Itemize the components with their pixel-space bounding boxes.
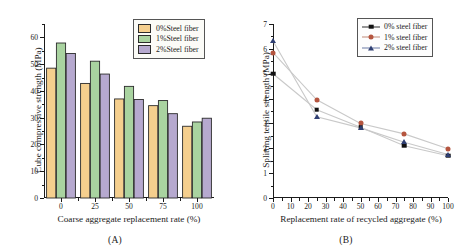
x-tick-label-b: 60 xyxy=(374,202,382,211)
legend-swatch-2pct xyxy=(138,45,151,54)
x-tick-minor-b xyxy=(387,198,388,201)
marker-circle-icon xyxy=(314,97,319,102)
y-axis-title-a: Cube compressive strength (MPa) xyxy=(33,23,43,197)
line-2steelfiber xyxy=(273,41,448,155)
x-tick-label-b: 0 xyxy=(271,202,275,211)
panel-a-bar-chart: 0102030405060 0255075100 Coarse aggregat… xyxy=(0,0,230,251)
x-tick-minor-a xyxy=(180,198,181,201)
x-tick-label-a: 0 xyxy=(59,202,63,211)
marker-triangle-icon xyxy=(401,139,407,144)
panel-b-caption: (B) xyxy=(231,235,461,245)
bar-2Steelfiber-0 xyxy=(66,53,75,198)
x-tick-minor-a xyxy=(112,198,113,201)
bar-0Steelfiber-50 xyxy=(115,99,124,198)
bar-0Steelfiber-100 xyxy=(183,126,192,198)
x-tick-minor-b xyxy=(422,198,423,201)
figure-two-panel-charts: 0102030405060 0255075100 Coarse aggregat… xyxy=(0,0,461,251)
bar-2Steelfiber-25 xyxy=(100,74,109,198)
bar-2Steelfiber-75 xyxy=(168,114,177,198)
bar-1Steelfiber-75 xyxy=(158,101,167,198)
x-tick-minor-a xyxy=(78,198,79,201)
x-tick-label-a: 100 xyxy=(191,202,202,211)
legend-marker-triangle xyxy=(362,43,380,52)
x-tick-minor-b xyxy=(334,198,335,201)
bar-1Steelfiber-25 xyxy=(90,61,99,198)
x-tick-minor-b xyxy=(299,198,300,201)
legend-item-b-2[interactable]: 2% steel fiber xyxy=(362,43,427,54)
x-axis-title-b: Replacement rate of recycled aggregate (… xyxy=(280,214,441,224)
marker-circle-icon xyxy=(402,131,407,136)
legend-label-b-0: 0% steel fiber xyxy=(384,22,427,31)
legend-triangle-icon xyxy=(368,45,374,50)
x-tick-minor-b xyxy=(369,198,370,201)
legend-swatch-0pct xyxy=(138,24,151,33)
bar-2Steelfiber-100 xyxy=(202,118,211,198)
line-1steelfiber xyxy=(273,53,448,149)
marker-triangle-icon xyxy=(445,152,451,157)
bar-1Steelfiber-0 xyxy=(56,43,65,198)
x-tick-label-a: 25 xyxy=(91,202,99,211)
legend-label-a-2: 2%Steel fiber xyxy=(156,45,199,54)
x-tick-label-a: 75 xyxy=(159,202,167,211)
x-tick-label-b: 40 xyxy=(339,202,347,211)
x-tick-minor-b xyxy=(352,198,353,201)
legend-item-a-0[interactable]: 0%Steel fiber xyxy=(138,23,199,34)
x-tick-minor-b xyxy=(282,198,283,201)
legend-a: 0%Steel fiber1%Steel fiber2%Steel fiber xyxy=(133,19,205,59)
marker-triangle-icon xyxy=(314,114,320,119)
x-tick-label-b: 90 xyxy=(427,202,435,211)
x-tick-minor-b xyxy=(317,198,318,201)
legend-marker-square xyxy=(362,22,380,31)
legend-label-a-1: 1%Steel fiber xyxy=(156,34,199,43)
x-tick-label-b: 50 xyxy=(357,202,365,211)
x-tick-minor-b xyxy=(439,198,440,201)
bar-1Steelfiber-50 xyxy=(124,86,133,198)
marker-circle-icon xyxy=(271,50,276,55)
legend-marker-circle xyxy=(362,33,380,42)
legend-label-a-0: 0%Steel fiber xyxy=(156,24,199,33)
bar-0Steelfiber-75 xyxy=(149,106,158,198)
x-tick-label-b: 30 xyxy=(322,202,330,211)
x-tick-label-a: 50 xyxy=(125,202,133,211)
marker-triangle-icon xyxy=(358,125,364,130)
panel-a-caption: (A) xyxy=(0,235,230,245)
bar-0Steelfiber-25 xyxy=(81,83,90,198)
x-tick-minor-a xyxy=(146,198,147,201)
bar-0Steelfiber-0 xyxy=(47,68,56,198)
x-tick-label-b: 80 xyxy=(409,202,417,211)
legend-square-icon xyxy=(369,24,374,29)
legend-label-b-2: 2% steel fiber xyxy=(384,43,427,52)
y-tick-a xyxy=(40,198,44,199)
legend-label-b-1: 1% steel fiber xyxy=(384,33,427,42)
x-axis-title-a: Coarse aggregate replacement rate (%) xyxy=(58,214,201,224)
marker-square-icon xyxy=(314,107,319,112)
bar-2Steelfiber-50 xyxy=(134,99,143,198)
legend-swatch-1pct xyxy=(138,35,151,44)
x-tick-label-b: 70 xyxy=(392,202,400,211)
legend-item-a-2[interactable]: 2%Steel fiber xyxy=(138,44,199,55)
x-tick-minor-b xyxy=(404,198,405,201)
legend-item-a-1[interactable]: 1%Steel fiber xyxy=(138,34,199,45)
x-tick-label-b: 100 xyxy=(442,202,453,211)
legend-b: 0% steel fiber1% steel fiber2% steel fib… xyxy=(357,18,433,57)
x-tick-label-b: 20 xyxy=(304,202,312,211)
x-tick-label-b: 10 xyxy=(287,202,295,211)
panel-b-line-chart: 01234567 0102030405060708090100 Replacem… xyxy=(231,0,461,251)
bar-1Steelfiber-100 xyxy=(192,122,201,198)
legend-item-b-1[interactable]: 1% steel fiber xyxy=(362,32,427,43)
y-axis-title-b: Splitting tensile strength (MPa) xyxy=(261,23,271,197)
legend-item-b-0[interactable]: 0% steel fiber xyxy=(362,22,427,33)
legend-circle-icon xyxy=(369,35,374,40)
